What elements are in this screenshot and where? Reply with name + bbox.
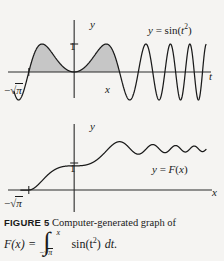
bottom-x-axis-label: x — [212, 186, 217, 198]
curve-label-y: y — [148, 24, 153, 36]
caption-formula: F(x) = ∫ x −√π sin(t2) dt. — [4, 231, 222, 257]
top-x-tick-label-neg-sqrt-pi: −√π — [4, 83, 23, 96]
curve-label-fn: sin( — [165, 24, 182, 36]
caption-description: Computer-generated graph of — [52, 217, 176, 228]
curve-label-equals: = — [160, 163, 166, 175]
curve-label-close: ) — [184, 163, 188, 175]
curve-label-close: ) — [188, 24, 192, 36]
integral-group: ∫ x −√π — [39, 231, 69, 257]
chart-bottom-antiderivative: y x 1 −√π y = F(x) — [0, 118, 224, 216]
integral-upper-limit: x — [56, 229, 60, 237]
caption-line-1: FIGURE 5 Computer-generated graph of — [4, 216, 222, 229]
top-x-axis-label: t — [209, 70, 212, 82]
bottom-x-tick-label-neg-sqrt-pi: −√π — [4, 196, 23, 209]
formula-integrand: sin(t2) — [71, 237, 100, 251]
curve-label-equals: = — [156, 24, 162, 36]
top-x-tick-label-x: x — [105, 83, 110, 95]
chart-bottom-svg — [0, 118, 224, 216]
top-y-axis-label: y — [90, 18, 95, 30]
formula-differential: dt. — [105, 238, 117, 251]
bottom-y-axis-label: y — [90, 120, 95, 132]
radicand-pi: π — [15, 196, 23, 209]
formula-lhs: F(x) — [4, 238, 25, 251]
bottom-curve-label: y = F(x) — [152, 163, 188, 175]
figure-caption: FIGURE 5 Computer-generated graph of F(x… — [4, 216, 222, 257]
integrand-sin: sin(t — [71, 237, 92, 251]
top-curve-label: y = sin(t2) — [148, 22, 192, 36]
integral-lower-limit: −√π — [39, 248, 53, 257]
chart-top-svg — [0, 0, 224, 120]
curve-label-y: y — [152, 163, 157, 175]
top-y-tick-label-1: 1 — [70, 40, 76, 52]
bottom-y-tick-label-1: 1 — [70, 162, 76, 174]
formula-equals: = — [29, 238, 36, 251]
chart-top-integrand: y t 1 −√π x y = sin(t2) — [0, 0, 224, 120]
integrand-close: ) — [97, 237, 101, 251]
radicand-pi: π — [47, 248, 53, 257]
figure-5-container: y t 1 −√π x y = sin(t2) y x 1 −√π — [0, 0, 224, 261]
radicand-pi: π — [15, 83, 23, 96]
